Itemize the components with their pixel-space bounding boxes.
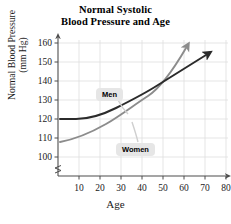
x-tick-label-80: 80 [216,183,231,193]
series-label-women: Women [116,143,155,156]
x-tick-label-20: 20 [90,183,110,193]
y-tick-label-140: 140 [26,76,52,86]
x-tick-label-70: 70 [195,183,215,193]
blood-pressure-age-chart: Normal Systolic Blood Pressure and Age N… [0,0,231,224]
y-tick-label-100: 100 [26,152,52,162]
y-axis-break-icon [55,166,61,174]
y-tick-label-110: 110 [26,133,52,143]
x-tick-label-10: 10 [69,183,89,193]
y-tick-label-130: 130 [26,95,52,105]
x-tick-label-40: 40 [132,183,152,193]
y-tick-label-160: 160 [26,38,52,48]
series-label-men: Men [96,88,123,101]
y-tick-label-150: 150 [26,57,52,67]
x-tick-label-60: 60 [174,183,194,193]
callout-leader-women [132,122,138,142]
x-tick-label-30: 30 [111,183,131,193]
x-tick-label-50: 50 [153,183,173,193]
y-tick-label-120: 120 [26,114,52,124]
